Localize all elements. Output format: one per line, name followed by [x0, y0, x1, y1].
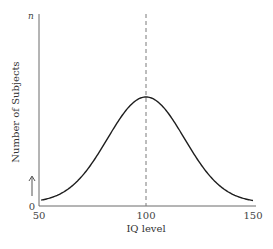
x-tick-label-150: 150: [243, 210, 262, 221]
y-axis-top-label: n: [28, 11, 34, 21]
y-axis-label: Number of Subjects: [10, 61, 21, 162]
x-axis-label: IQ level: [126, 223, 165, 234]
normal-curve: [41, 97, 253, 201]
x-tick-labels: 50100150: [33, 210, 263, 221]
x-tick-label-100: 100: [136, 210, 155, 221]
axes: [39, 14, 256, 206]
x-tick-label-50: 50: [33, 210, 46, 221]
up-arrow-icon: [29, 176, 35, 196]
iq-distribution-chart: n 0 Number of Subjects IQ level 50100150: [0, 0, 273, 249]
